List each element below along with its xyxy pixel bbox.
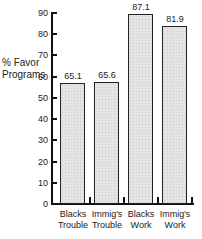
x-category-label-line: Immig's [88,209,126,220]
x-category-label: BlacksWork [122,209,160,231]
bar [162,26,187,204]
y-tick [53,161,57,163]
x-category-label-line: Blacks [122,209,160,220]
bar-value-label: 65.6 [90,70,124,80]
y-tick-label: 20 [26,157,48,167]
y-tick [53,118,57,120]
bar [128,14,153,204]
y-tick-label: 50 [26,93,48,103]
x-tick [157,197,159,203]
x-category-label-line: Work [156,220,194,231]
x-category-label-line: Trouble [54,220,92,231]
x-category-label: Immig'sWork [156,209,194,231]
y-axis [51,12,53,205]
bar [60,83,85,204]
x-category-label-line: Work [122,220,160,231]
bar-value-label: 65.1 [56,71,90,81]
y-tick [53,54,57,56]
x-category-label: BlacksTrouble [54,209,92,231]
bar-value-label: 87.1 [124,2,158,12]
y-tick-label: 40 [26,114,48,124]
bar-value-label: 81.9 [158,14,192,24]
y-tick-label: 60 [26,72,48,82]
y-tick-label: 80 [26,29,48,39]
x-tick [123,197,125,203]
y-tick-label: 30 [26,135,48,145]
y-tick [53,33,57,35]
y-tick [53,97,57,99]
y-tick [53,12,57,14]
bar [94,82,119,204]
x-tick [191,197,193,203]
y-tick [53,139,57,141]
y-tick-label: 10 [26,178,48,188]
y-tick-label: 70 [26,50,48,60]
y-tick-label: 90 [26,8,48,18]
x-category-label-line: Immig's [156,209,194,220]
y-tick-label: 0 [26,199,48,209]
x-category-label-line: Trouble [88,220,126,231]
x-category-label-line: Blacks [54,209,92,220]
y-tick [53,182,57,184]
x-tick [89,197,91,203]
y-tick [53,203,57,205]
x-category-label: Immig'sTrouble [88,209,126,231]
